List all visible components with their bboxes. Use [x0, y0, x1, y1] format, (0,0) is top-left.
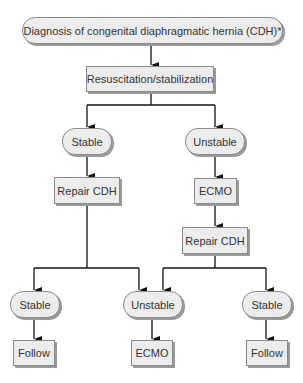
stable-node-3: Stable: [242, 291, 292, 318]
follow-label-1: Follow: [18, 347, 50, 359]
unstable-label-2: Unstable: [131, 299, 174, 311]
stable-label-3: Stable: [251, 299, 282, 311]
ecmo-label-2: ECMO: [136, 347, 169, 359]
unstable-node-2: Unstable: [123, 291, 183, 318]
repair-cdh-node-right: Repair CDH: [182, 227, 248, 254]
resuscitation-label: Resuscitation/stabilization: [87, 73, 214, 85]
follow-label-2: Follow: [251, 347, 283, 359]
diagnosis-label: Diagnosis of congenital diaphragmatic he…: [23, 25, 281, 37]
stable-node-1: Stable: [62, 128, 112, 155]
repair-cdh-label-left: Repair CDH: [57, 185, 116, 197]
ecmo-label-1: ECMO: [199, 185, 232, 197]
ecmo-node-1: ECMO: [194, 178, 237, 204]
diagnosis-node: Diagnosis of congenital diaphragmatic he…: [22, 17, 283, 44]
follow-node-1: Follow: [13, 340, 55, 366]
unstable-node-1: Unstable: [185, 128, 245, 155]
repair-cdh-node-left: Repair CDH: [54, 177, 120, 204]
stable-label-1: Stable: [71, 136, 102, 148]
follow-node-2: Follow: [246, 340, 288, 366]
unstable-label-1: Unstable: [193, 136, 236, 148]
ecmo-node-2: ECMO: [131, 340, 173, 366]
connector-lines: [0, 0, 303, 383]
resuscitation-node: Resuscitation/stabilization: [86, 66, 214, 92]
stable-label-2: Stable: [19, 299, 50, 311]
stable-node-2: Stable: [10, 291, 60, 318]
repair-cdh-label-right: Repair CDH: [185, 235, 244, 247]
